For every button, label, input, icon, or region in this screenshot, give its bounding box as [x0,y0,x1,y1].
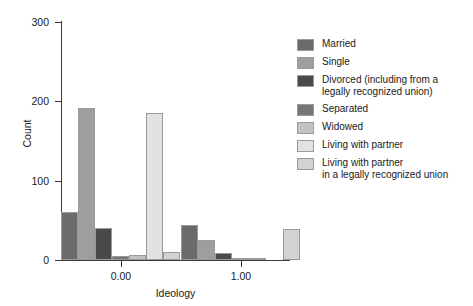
bar [112,256,129,260]
x-axis-title: Ideology [61,288,290,299]
legend-item-label: Married [322,38,356,50]
x-axis-line [61,260,290,261]
y-axis-tick [55,181,61,182]
x-axis-tick [241,261,242,267]
legend-swatch-icon [297,57,314,69]
x-axis-tick [121,261,122,267]
y-axis-tick [55,260,61,261]
bar [146,113,163,260]
x-axis-tick-label: 0.00 [91,271,151,282]
legend-item-label: Widowed [322,121,363,133]
bar [283,229,300,260]
legend-item: Divorced (including from a legally recog… [297,74,473,98]
bar [129,255,146,260]
y-axis-tick-label: 100 [9,176,49,187]
legend-item-label: Divorced (including from a legally recog… [322,74,438,98]
legend-item: Living with partner [297,139,473,152]
bar [181,225,198,260]
bar-chart-figure: 0100200300 0.001.00 Count Ideology Marri… [0,0,473,306]
legend-swatch-icon [297,104,314,116]
legend-item: Separated [297,103,473,116]
y-axis-tick [55,101,61,102]
y-axis-tick [55,22,61,23]
legend-item: Living with partner in a legally recogni… [297,157,473,181]
legend-swatch-icon [297,140,314,152]
bar [249,258,266,260]
bar [215,253,232,260]
legend-item: Single [297,56,473,69]
legend-swatch-icon [297,39,314,51]
y-axis-tick-label: 300 [9,17,49,28]
chart-legend: MarriedSingleDivorced (including from a … [297,38,473,186]
y-axis-tick-label: 0 [9,255,49,266]
legend-item-label: Single [322,56,350,68]
bar [198,240,215,260]
legend-item-label: Living with partner in a legally recogni… [322,157,448,181]
plot-area [62,22,290,260]
legend-item: Widowed [297,121,473,134]
legend-swatch-icon [297,158,314,170]
bar [163,252,180,260]
legend-swatch-icon [297,75,314,87]
legend-item-label: Separated [322,103,368,115]
bar [95,228,112,260]
bar [78,108,95,260]
legend-item: Married [297,38,473,51]
bar [61,212,78,260]
legend-swatch-icon [297,122,314,134]
y-axis-title: Count [22,104,33,164]
legend-item-label: Living with partner [322,139,403,151]
x-axis-tick-label: 1.00 [211,271,271,282]
bar [232,258,249,260]
